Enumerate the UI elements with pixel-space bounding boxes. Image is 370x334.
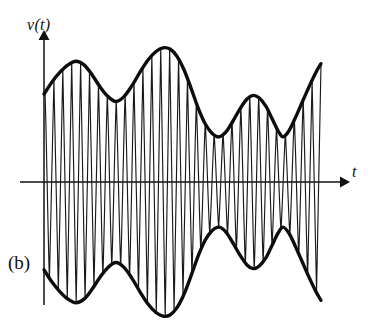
upper-envelope-curve xyxy=(44,48,321,137)
waveform-plot xyxy=(0,0,370,334)
panel-label: (b) xyxy=(8,252,30,274)
y-axis-label: v(t) xyxy=(27,16,50,34)
x-axis-arrow-icon xyxy=(340,177,350,188)
figure-panel-b: v(t) t (b) xyxy=(0,0,370,334)
x-axis-label: t xyxy=(352,163,356,181)
